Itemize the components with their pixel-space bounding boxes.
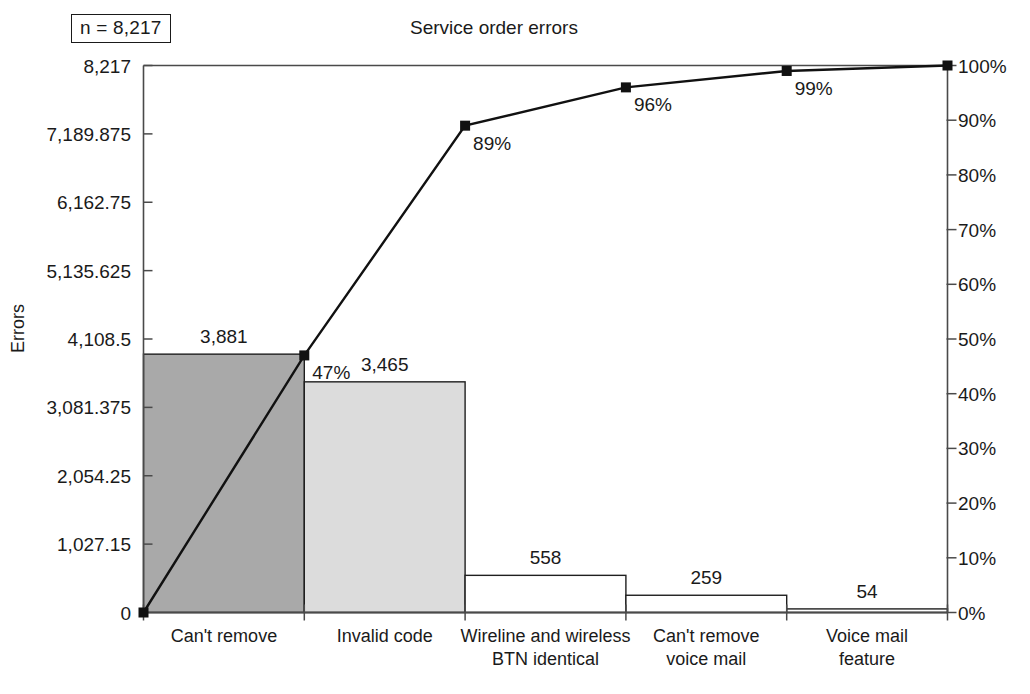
x-axis-category-label-line: feature [775,648,960,671]
x-axis-category-label-line: Can't remove [132,625,317,648]
pareto-chart: n = 8,217 Service order errors Errors 01… [0,0,1030,694]
x-axis-category-label: Invalid code [292,625,477,648]
bar-value-label: 259 [690,568,722,587]
x-axis-category-label-line: voice mail [614,648,799,671]
cumulative-percent-label: 47% [312,363,350,382]
x-axis-category-label-line: Can't remove [614,625,799,648]
x-axis-category-label: Can't removevoice mail [614,625,799,671]
bar-value-label: 3,881 [200,327,248,346]
x-axis-category-label-line: Wireline and wireless [453,625,638,648]
cumulative-point-marker [139,608,149,618]
bar [304,382,465,613]
x-axis-category-label-line: Invalid code [292,625,477,648]
bar-value-label: 558 [530,548,562,567]
x-axis-category-label: Wireline and wirelessBTN identical [453,625,638,671]
cumulative-point-marker [621,82,631,92]
bar-value-label: 3,465 [361,355,409,374]
cumulative-point-marker [460,121,470,131]
bar [465,575,626,612]
bar [626,595,787,612]
x-axis-category-label: Voice mailfeature [775,625,960,671]
x-axis-category-label: Can't remove [132,625,317,648]
x-axis-category-label-line: Voice mail [775,625,960,648]
cumulative-point-marker [299,350,309,360]
cumulative-percent-label: 99% [795,79,833,98]
bar-value-label: 54 [857,582,878,601]
cumulative-percent-label: 96% [634,95,672,114]
cumulative-point-marker [782,66,792,76]
cumulative-point-marker [943,61,953,71]
cumulative-percent-label: 89% [473,134,511,153]
x-axis-category-label-line: BTN identical [453,648,638,671]
